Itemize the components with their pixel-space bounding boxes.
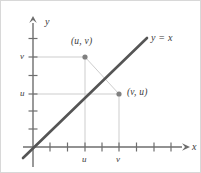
plot-canvas (1, 1, 201, 173)
x-axis-arrowhead (182, 143, 190, 151)
guide-lines (33, 57, 119, 147)
y-tick-label-v: v (20, 52, 24, 61)
identity-line-label: y = x (151, 33, 173, 43)
y-axis-label: y (45, 17, 50, 27)
point-u-v (82, 54, 87, 59)
x-tick-label-u: u (82, 155, 87, 164)
y-tick-label-u: u (20, 89, 25, 98)
y-axis-arrowhead (29, 16, 37, 23)
reflection-connector-line (85, 57, 119, 94)
coordinate-plane-figure: y x v u u v (u, v) (v, u) y = x (0, 0, 201, 173)
point-label-v-u: (v, u) (127, 88, 148, 98)
point-v-u (116, 91, 121, 96)
x-tick-label-v: v (116, 155, 120, 164)
x-axis-label: x (192, 142, 197, 152)
point-label-u-v: (u, v) (71, 37, 92, 47)
